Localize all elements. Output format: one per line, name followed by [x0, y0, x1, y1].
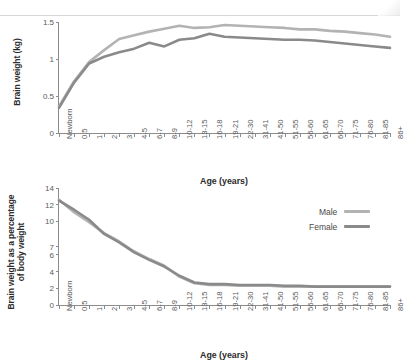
x-tick-mark [285, 305, 286, 309]
x-tick-label: 1 [95, 135, 104, 139]
x-tick-label: 6-7 [155, 300, 164, 311]
legend-swatch-male [344, 210, 370, 213]
x-tick-label: 61-65 [321, 292, 330, 311]
x-tick-label: 76-80 [366, 292, 375, 311]
y-tick-label: 1 [50, 55, 59, 64]
y-tick-label: 14 [45, 184, 59, 193]
x-tick-label: 0.5 [80, 300, 89, 311]
x-tick-mark [330, 305, 331, 309]
legend-item-female: Female [309, 219, 370, 234]
x-tick-label: 2 [110, 135, 119, 139]
x-tick-label: 56-60 [306, 292, 315, 311]
y-tick-label: 0.5 [43, 92, 59, 101]
x-tick-mark [240, 305, 241, 309]
x-tick-label: 41-50 [276, 292, 285, 311]
x-tick-mark [194, 305, 195, 309]
x-tick-label: 10-12 [185, 120, 194, 139]
x-tick-label: 66-70 [336, 292, 345, 311]
x-tick-label: 0.5 [80, 128, 89, 139]
chart-panel-brain-weight-kg: Brain weight (kg) 00.511.5Newborn0.51234… [0, 16, 400, 182]
x-tick-mark [89, 305, 90, 309]
x-tick-label: 8-9 [170, 300, 179, 311]
x-tick-mark [149, 305, 150, 309]
x-tick-label: 22-30 [246, 120, 255, 139]
x-tick-mark [179, 133, 180, 137]
x-tick-mark [104, 133, 105, 137]
x-tick-mark [119, 133, 120, 137]
x-tick-label: 13-15 [200, 292, 209, 311]
x-tick-label: 66-70 [336, 120, 345, 139]
scan-artifact-corner [378, 0, 400, 16]
x-tick-mark [390, 133, 391, 137]
x-tick-label: 76-80 [366, 120, 375, 139]
y-tick-label: 2 [50, 284, 59, 293]
x-tick-mark [285, 133, 286, 137]
x-tick-mark [149, 133, 150, 137]
y-tick-label: 0 [50, 301, 59, 310]
x-tick-mark [194, 133, 195, 137]
legend-swatch-female [344, 225, 370, 228]
x-tick-mark [300, 305, 301, 309]
x-tick-mark [375, 133, 376, 137]
x-tick-mark [360, 133, 361, 137]
x-tick-mark [255, 305, 256, 309]
x-tick-label: 16-18 [215, 120, 224, 139]
x-tick-mark [179, 305, 180, 309]
x-tick-label: 4-5 [140, 300, 149, 311]
x-tick-mark [375, 305, 376, 309]
x-tick-label: 56-60 [306, 120, 315, 139]
x-tick-label: 81-85 [381, 292, 390, 311]
x-tick-mark [345, 305, 346, 309]
x-tick-label: 19-21 [231, 292, 240, 311]
x-axis-title-bottom: Age (years) [58, 350, 390, 360]
x-tick-label: 86+ [396, 298, 405, 311]
y-axis-title-bottom: Brain weight as a percentage of body wei… [6, 192, 26, 312]
x-tick-mark [209, 133, 210, 137]
x-tick-label: 1 [95, 307, 104, 311]
plot-area-top: 00.511.5Newborn0.51234-56-78-910-1213-15… [58, 22, 390, 134]
x-tick-label: 41-50 [276, 120, 285, 139]
x-tick-mark [315, 305, 316, 309]
x-tick-mark [164, 133, 165, 137]
plot-area-bottom: Male Female 02467101214Newborn0.51234-56… [58, 188, 390, 306]
x-tick-mark [134, 133, 135, 137]
y-tick-label: 12 [45, 200, 59, 209]
x-tick-label: Newborn [65, 281, 74, 311]
y-tick-label: 6 [50, 250, 59, 259]
x-tick-mark [89, 133, 90, 137]
x-tick-mark [74, 133, 75, 137]
y-tick-label: 7 [50, 242, 59, 251]
y-tick-label: 0 [50, 129, 59, 138]
x-tick-label: 61-65 [321, 120, 330, 139]
x-tick-label: 31-41 [261, 292, 270, 311]
x-tick-mark [240, 133, 241, 137]
y-axis-title-top: Brain weight (kg) [12, 16, 22, 128]
x-tick-mark [104, 305, 105, 309]
x-tick-mark [134, 305, 135, 309]
x-tick-label: 3 [125, 135, 134, 139]
x-tick-mark [390, 305, 391, 309]
legend: Male Female [309, 204, 370, 234]
chart-panel-brain-percent-body: Brain weight as a percentage of body wei… [0, 182, 400, 364]
x-tick-label: 81-85 [381, 120, 390, 139]
x-tick-mark [315, 133, 316, 137]
x-tick-mark [300, 133, 301, 137]
x-tick-label: 51-55 [291, 120, 300, 139]
x-tick-label: 10-12 [185, 292, 194, 311]
x-tick-mark [255, 133, 256, 137]
x-tick-mark [345, 133, 346, 137]
x-tick-label: 13-15 [200, 120, 209, 139]
x-tick-mark [270, 133, 271, 137]
x-tick-mark [225, 133, 226, 137]
x-tick-label: 86+ [396, 126, 405, 139]
x-tick-label: 6-7 [155, 128, 164, 139]
x-tick-mark [164, 305, 165, 309]
x-tick-label: 19-21 [231, 120, 240, 139]
x-tick-mark [360, 305, 361, 309]
y-tick-label: 10 [45, 217, 59, 226]
legend-item-male: Male [309, 204, 370, 219]
x-tick-label: Newborn [65, 109, 74, 139]
x-tick-mark [74, 305, 75, 309]
x-tick-label: 3 [125, 307, 134, 311]
